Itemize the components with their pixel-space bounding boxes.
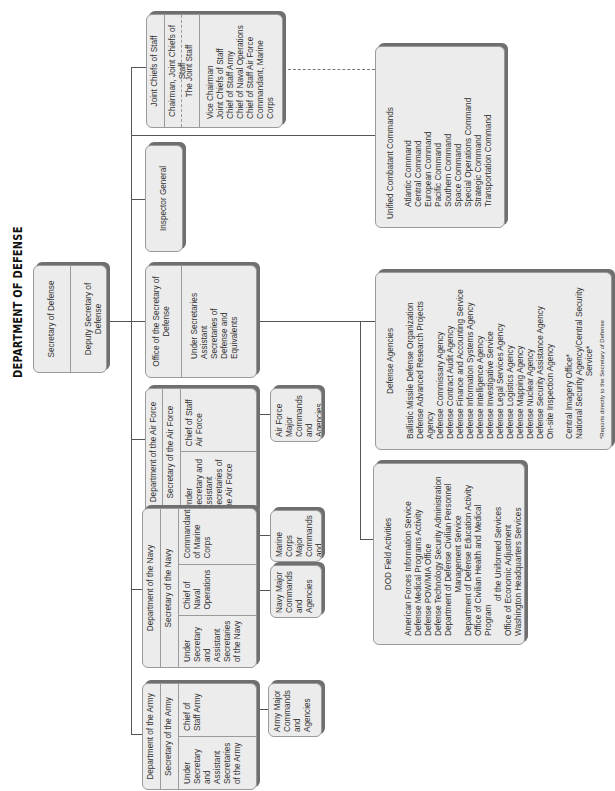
agency-item: On-site Inspection Agency (546, 283, 556, 439)
air-force-chief-of-staff: Chief of Staff Air Force (181, 389, 257, 452)
connector-af (131, 439, 145, 440)
connector-army-major (257, 709, 268, 710)
field-activity-item: Office of Civilian Health and Medical Pr… (474, 472, 494, 636)
marine-major-box: Marine Corps Major Commands and Agencies (270, 510, 322, 562)
field-activity-item: Office of Economic Adjustment (504, 472, 514, 636)
agency-item: Defense Investigative Service (486, 283, 496, 439)
osd-title: Office of the Secretary of Defense (146, 266, 182, 377)
agency-extra-item: Service* (585, 283, 595, 439)
inspector-general-title: Inspector General (146, 146, 172, 251)
army-title: Department of the Army (143, 684, 161, 789)
field-activity-item: of the Uniformed Services (494, 472, 504, 636)
ucc-item: European Command (424, 55, 434, 207)
secdef-box: Secretary of Defense Deputy Secretary of… (33, 265, 107, 373)
jcs-member: Chief of Staff Air Force (246, 23, 256, 119)
field-activity-item: Department of Defense Civilian Personnel (444, 472, 454, 636)
connector-army (131, 734, 142, 735)
connector-navy-major (257, 590, 270, 591)
ucc-item: Southern Command (444, 55, 454, 207)
osd-box: Office of the Secretary of Defense Under… (145, 265, 257, 378)
connector-jcs-ucc-dashed (283, 69, 375, 70)
jcs-joint-staff: The Joint Staff (182, 15, 200, 127)
navy-major-commands: Navy Major Commands and Agencies (275, 570, 315, 613)
agency-item: Defense Mapping Agency (516, 283, 526, 439)
agency-extra-item: Central Imagery Office* (565, 283, 575, 439)
field-activities-title: DOD Field Activities (384, 472, 394, 636)
ucc-item: Special Operations Command (464, 55, 474, 207)
connector-af-major (257, 414, 270, 415)
connector-osd-branch (360, 322, 361, 540)
connector-jcs (131, 67, 146, 68)
air-force-under-secretary: Under Secretary and Assistant Secretarie… (181, 452, 257, 516)
navy-title: Department of the Navy (143, 509, 161, 667)
connector-osd-agencies (257, 321, 375, 322)
agency-item: Defense Contract Audit Agency (446, 283, 456, 439)
org-chart: DEPARTMENT OF DEFENSE Secretary of Defen… (0, 0, 615, 791)
agency-extra-item: National Security Agency/Central Securit… (575, 283, 585, 439)
connector-ig (131, 199, 145, 200)
field-activity-item: Department of Defense Education Activity (464, 472, 474, 636)
field-activity-item: Defense POW/MIA Office (424, 472, 434, 636)
field-activity-item: Defense Technology Security Administrati… (434, 472, 444, 636)
marine-major-commands: Marine Corps Major Commands and Agencies (275, 515, 322, 557)
army-under-secretary: Under Secretary and Assistant Secretarie… (179, 736, 257, 789)
air-force-secretary: Secretary of the Air Force (163, 389, 181, 515)
chart-title: DEPARTMENT OF DEFENSE (11, 226, 25, 378)
field-activity-item: American Forces Information Service (404, 472, 414, 636)
defense-agencies-list: Ballistic Missile Defense Organization D… (406, 283, 556, 439)
deputy-secdef: Deputy Secretary of Defense (71, 266, 107, 372)
connector-trunk (131, 67, 132, 735)
air-force-major-commands: Air Force Major Commands and Agencies (275, 393, 322, 437)
field-activity-item: Management Service (454, 472, 464, 636)
commandant-marine-corps: Commandant of Marine Corps (179, 508, 257, 564)
agency-item: Defense Intelligence Agency (476, 283, 486, 439)
jcs-member: Chief of Staff Army (226, 23, 236, 119)
connector-field-activities (360, 539, 373, 540)
ucc-item: Strategic Command (474, 55, 484, 207)
field-activities-box: DOD Field Activities American Forces Inf… (373, 463, 525, 645)
defense-agencies-footnote: *Reports directly to the Secretary of De… (598, 283, 606, 439)
connector-secdef (107, 321, 131, 322)
unified-combatant-box: Unified Combatant Commands Atlantic Comm… (375, 46, 505, 228)
navy-under-secretary: Under Secretary and Assistant Secretarie… (179, 615, 257, 667)
jcs-title: Joint Chiefs of Staff (147, 15, 165, 127)
army-secretary: Secretary of the Army (161, 684, 179, 789)
ucc-item: Transportation Command (484, 55, 494, 207)
agency-item: Defense Nuclear Agency (526, 283, 536, 439)
ucc-item: Central Command (414, 55, 424, 207)
jcs-member: Commandant, Marine Corps (256, 23, 276, 119)
defense-agencies-extra: Central Imagery Office* National Securit… (565, 283, 595, 439)
army-major-box: Army Major Commands and Agencies (268, 683, 322, 737)
agency-item: Defense Logistics Agency (506, 283, 516, 439)
air-force-major-box: Air Force Major Commands and Agencies (270, 388, 322, 442)
jcs-box: Joint Chiefs of Staff Chairman, Joint Ch… (146, 14, 283, 128)
connector-ucc (131, 135, 375, 136)
agency-item: Defense Commissary Agency (436, 283, 446, 439)
jcs-chairman: Chairman, Joint Chiefs of Staff (165, 15, 182, 127)
agency-item: Defense Information Systems Agency (466, 283, 476, 439)
army-major-commands: Army Major Commands and Agencies (273, 688, 313, 732)
jcs-member: Chief of Naval Operations (236, 23, 246, 119)
secdef-title: Secretary of Defense (34, 266, 71, 372)
army-box: Department of the Army Secretary of the … (142, 683, 257, 790)
field-activity-item: Defense Medical Programs Activity (414, 472, 424, 636)
agency-item: Defense Security Assistance Agency (536, 283, 546, 439)
navy-secretary: Secretary of the Navy (161, 509, 179, 667)
army-chief-of-staff: Chief of Staff Army (179, 684, 257, 736)
connector-navy (131, 589, 142, 590)
ucc-item: Atlantic Command (404, 55, 414, 207)
agency-item: Defense Advanced Research Projects Agenc… (416, 283, 436, 439)
agency-item: Ballistic Missile Defense Organization (406, 283, 416, 439)
inspector-general-box: Inspector General (145, 145, 183, 252)
ucc-title: Unified Combatant Commands (386, 55, 396, 219)
connector-mc-major (257, 535, 270, 536)
air-force-box: Department of the Air Force Secretary of… (145, 388, 257, 516)
jcs-member: Vice Chairman (206, 23, 216, 119)
osd-members: Under Secretaries Assistant Secretaries … (182, 266, 248, 377)
field-activity-item: Washington Headquarters Services (514, 472, 524, 636)
jcs-member: Joint Chiefs of Staff (216, 23, 226, 119)
ucc-item: Space Command (454, 55, 464, 207)
defense-agencies-box: Defense Agencies Ballistic Missile Defen… (375, 272, 612, 450)
ucc-list: Atlantic Command Central Command Europea… (404, 55, 494, 219)
connector-osd (131, 321, 145, 322)
